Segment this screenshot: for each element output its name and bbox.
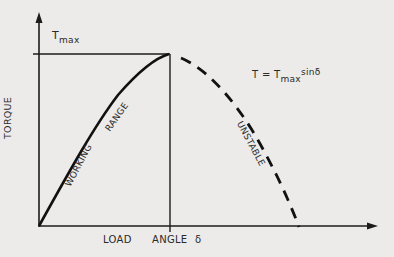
y-axis-arrow-icon xyxy=(36,12,43,23)
x-axis-arrow-icon xyxy=(367,223,378,230)
equation-lhs: T = T xyxy=(252,69,280,80)
y-axis-label: TORQUE xyxy=(3,97,13,139)
tmax-sub: max xyxy=(59,35,80,45)
equation-sub: max xyxy=(280,74,301,84)
x-axis-label-load: LOAD xyxy=(103,235,132,245)
torque-angle-diagram: Tmax T = Tmaxsinδ TORQUE WORKING RANGE U… xyxy=(0,0,394,257)
equation-sup: sinδ xyxy=(301,67,321,77)
tmax-main: T xyxy=(52,29,59,42)
tmax-label: Tmax xyxy=(52,30,80,41)
working-range-curve xyxy=(39,54,169,226)
equation-label: T = Tmaxsinδ xyxy=(252,70,321,80)
x-axis-label-delta: δ xyxy=(195,235,201,245)
x-axis-label-angle: ANGLE xyxy=(152,235,187,245)
